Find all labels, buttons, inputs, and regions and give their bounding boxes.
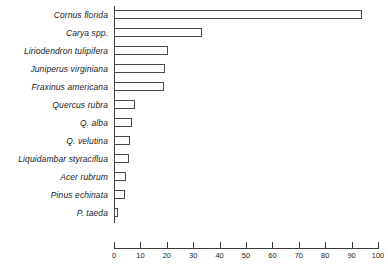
bar: [114, 190, 125, 199]
bar: [114, 46, 168, 55]
bar: [114, 118, 132, 127]
category-label: Q. velutina: [0, 132, 112, 150]
x-axis-tick-label: 100: [372, 251, 385, 260]
bar: [114, 154, 129, 163]
bar: [114, 82, 164, 91]
category-label: Quercus rubra: [0, 96, 112, 114]
plot-area: [114, 6, 378, 222]
x-axis-tick-label: 70: [295, 251, 303, 260]
bar-row: [114, 114, 378, 132]
x-axis-tick: [299, 242, 300, 249]
x-axis-tick-label: 0: [112, 251, 116, 260]
bar: [114, 10, 362, 19]
bar: [114, 28, 202, 37]
x-axis-tick-label: 20: [163, 251, 171, 260]
bar-row: [114, 186, 378, 204]
bar-row: [114, 204, 378, 222]
bar: [114, 100, 135, 109]
x-axis-tick-label: 90: [347, 251, 355, 260]
x-axis-tick: [352, 242, 353, 249]
x-axis-tick-label: 50: [242, 251, 250, 260]
bar-row: [114, 42, 378, 60]
category-label: Liriodendron tulipifera: [0, 42, 112, 60]
x-axis-tick: [272, 242, 273, 249]
x-axis-tick: [140, 242, 141, 249]
category-label: Liquidambar styraciflua: [0, 150, 112, 168]
category-label: Pinus echinata: [0, 186, 112, 204]
bar-row: [114, 60, 378, 78]
category-label: P. taeda: [0, 204, 112, 222]
x-axis-tick: [193, 242, 194, 249]
bar: [114, 208, 118, 217]
x-axis-tick-label: 60: [268, 251, 276, 260]
category-label: Fraxinus americana: [0, 78, 112, 96]
x-axis-tick-label: 10: [136, 251, 144, 260]
x-axis-tick: [325, 242, 326, 249]
category-label: Juniperus virginiana: [0, 60, 112, 78]
x-axis-tick: [246, 242, 247, 249]
bar-row: [114, 24, 378, 42]
category-label: Q. alba: [0, 114, 112, 132]
x-axis-tick-label: 40: [215, 251, 223, 260]
bar-row: [114, 168, 378, 186]
category-axis: Cornus floridaCarya spp.Liriodendron tul…: [0, 6, 112, 222]
x-axis-tick-label: 30: [189, 251, 197, 260]
x-axis-tick: [114, 242, 115, 249]
bar: [114, 172, 126, 181]
value-axis: 0102030405060708090100: [114, 240, 378, 264]
category-label: Carya spp.: [0, 24, 112, 42]
bar-row: [114, 6, 378, 24]
bar-row: [114, 78, 378, 96]
x-axis-tick: [220, 242, 221, 249]
bar-row: [114, 132, 378, 150]
bar-row: [114, 96, 378, 114]
bar: [114, 136, 130, 145]
bar: [114, 64, 165, 73]
x-axis-tick: [167, 242, 168, 249]
bar-row: [114, 150, 378, 168]
x-axis-tick-label: 80: [321, 251, 329, 260]
category-label: Acer rubrum: [0, 168, 112, 186]
x-axis-tick: [378, 242, 379, 249]
horizontal-bar-chart: Cornus floridaCarya spp.Liriodendron tul…: [0, 0, 388, 264]
category-label: Cornus florida: [0, 6, 112, 24]
